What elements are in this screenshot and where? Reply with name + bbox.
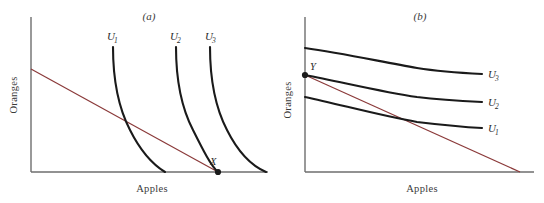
panel-a-label-u3: U 3	[205, 30, 216, 45]
panel-b-label-u3: U 3	[488, 68, 499, 83]
panel-b-point-y-label: Y	[310, 61, 317, 72]
svg-text:2: 2	[495, 102, 499, 111]
panel-a-plot: (a) X U 1 U 2	[0, 0, 272, 203]
panel-a-curve-u2	[176, 47, 218, 172]
panel-b-label-u1: U 1	[488, 122, 499, 137]
panel-a-label-u2: U 2	[170, 30, 181, 45]
svg-text:3: 3	[211, 36, 216, 45]
panel-a-curve-u1	[113, 47, 165, 172]
panel-a-point-x-marker	[215, 169, 221, 175]
svg-text:1: 1	[114, 36, 118, 45]
panel-b-curve-u2	[305, 75, 482, 102]
panel-b-curve-u1	[305, 97, 482, 128]
panel-a-point-x-label: X	[209, 156, 217, 167]
panel-b-plot: (b) Y U 3 U 2	[272, 0, 544, 203]
panel-b-point-y-marker	[302, 72, 308, 78]
panel-b-caption: (b)	[414, 10, 427, 23]
svg-text:3: 3	[494, 74, 499, 83]
panel-a-x-axis-label: Apples	[136, 183, 168, 194]
panel-b-x-axis-label: Apples	[406, 183, 438, 194]
panel-b-label-u2: U 2	[488, 96, 499, 111]
svg-text:2: 2	[177, 36, 181, 45]
panel-a-curve-u3	[210, 47, 266, 172]
panel-b-y-axis-label: Oranges	[282, 81, 293, 118]
panel-a: (a) X U 1 U 2	[0, 0, 272, 203]
panel-b-curve-u3	[305, 48, 482, 74]
panel-a-y-axis-label: Oranges	[8, 76, 19, 113]
figure-container: (a) X U 1 U 2	[0, 0, 544, 203]
panel-a-caption: (a)	[143, 10, 156, 23]
panel-b: (b) Y U 3 U 2	[272, 0, 544, 203]
svg-text:1: 1	[495, 128, 499, 137]
panel-a-label-u1: U 1	[107, 30, 118, 45]
